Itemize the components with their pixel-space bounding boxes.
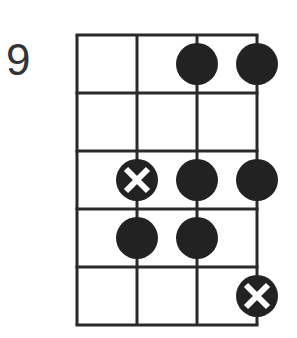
note-dot	[116, 217, 158, 259]
note-dot	[176, 217, 218, 259]
note-dot	[176, 43, 218, 85]
note-dot	[236, 159, 278, 201]
fretboard-grid	[0, 0, 297, 338]
note-dot	[236, 43, 278, 85]
note-dot	[176, 159, 218, 201]
